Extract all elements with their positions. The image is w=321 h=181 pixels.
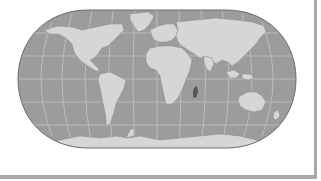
world-map <box>0 0 321 181</box>
